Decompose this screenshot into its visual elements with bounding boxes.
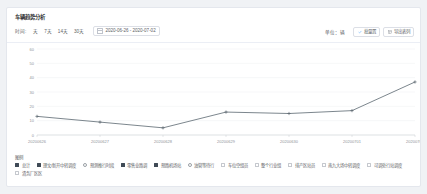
- date-range-input[interactable]: 2020-06-26 - 2020-07-02: [93, 26, 160, 36]
- data-point[interactable]: [161, 126, 164, 129]
- y-axis-tick: 30: [30, 90, 35, 95]
- legend-item-label: 南九大场中转调度: [328, 163, 360, 168]
- range-option-3[interactable]: 30天: [71, 26, 87, 37]
- y-axis-tick: 60: [30, 47, 35, 52]
- legend-checkbox-icon[interactable]: [255, 163, 259, 167]
- legend-item[interactable]: 理文/新开中转调度: [37, 163, 77, 168]
- time-filter-label: 时间:: [15, 26, 26, 37]
- y-axis-tick: 0: [32, 133, 35, 138]
- data-point[interactable]: [413, 80, 416, 83]
- trend-analysis-card: 车辆趋势分析 时间: 天 7天 14天 30天 2020-06-26 - 202…: [6, 7, 421, 187]
- legend-checkbox-icon[interactable]: [15, 163, 19, 167]
- chart-legend: 图例 总计理文/新开中转调度预测推行时段零售业路调预路机场站油管等待行车位空组员…: [15, 154, 414, 179]
- legend-item[interactable]: 南九大场中转调度: [322, 163, 361, 168]
- legend-item-label: 总计: [22, 163, 30, 168]
- x-axis-tick: 20200702: [406, 139, 421, 144]
- chart-canvas: 0102030405060202006262020062720200628202…: [7, 43, 421, 151]
- legend-item-label: 零售业路调: [127, 163, 147, 168]
- legend-item-label: 预路机场站: [161, 163, 181, 168]
- legend-item[interactable]: 总计: [15, 163, 30, 168]
- series-line: [37, 82, 415, 128]
- x-axis-tick: 20200630: [280, 139, 299, 144]
- legend-item-label: 清务厂区区: [22, 171, 42, 176]
- legend-item-label: 理文/新开中转调度: [43, 163, 76, 168]
- legend-row-secondary: 清务厂区区: [15, 171, 414, 179]
- data-point[interactable]: [350, 109, 353, 112]
- legend-item-label: 油管等待行: [194, 163, 214, 168]
- data-point[interactable]: [287, 112, 290, 115]
- legend-item[interactable]: 预测推行时段: [83, 163, 114, 168]
- legend-checkbox-icon[interactable]: [322, 163, 326, 167]
- data-point[interactable]: [98, 121, 101, 124]
- export-icon: [388, 30, 392, 34]
- legend-item-label: 车位空组员: [228, 163, 248, 168]
- x-axis-tick: 20200701: [343, 139, 362, 144]
- legend-item[interactable]: 排产区站员: [288, 163, 315, 168]
- legend-checkbox-icon[interactable]: [154, 163, 158, 167]
- legend-item-label: 预测推行时段: [90, 163, 114, 168]
- y-axis-tick: 40: [30, 75, 35, 80]
- x-axis-tick: 20200628: [154, 139, 173, 144]
- y-axis-tick: 50: [30, 61, 35, 66]
- legend-item[interactable]: 预路机场站: [154, 163, 181, 168]
- card-title: 车辆趋势分析: [15, 13, 46, 21]
- legend-checkbox-icon[interactable]: [367, 163, 371, 167]
- trend-line-chart: 0102030405060202006262020062720200628202…: [7, 43, 421, 151]
- legend-item-label: 整个行业组: [261, 163, 281, 168]
- legend-checkbox-icon[interactable]: [221, 163, 225, 167]
- date-range-value: 2020-06-26 - 2020-07-02: [106, 26, 156, 36]
- legend-checkbox-icon[interactable]: [15, 171, 19, 175]
- check-icon: [358, 30, 362, 34]
- x-axis-tick: 20200629: [217, 139, 236, 144]
- legend-checkbox-icon[interactable]: [188, 163, 192, 167]
- legend-item-label: 可调处行站调度: [374, 163, 402, 168]
- legend-checkbox-icon[interactable]: [121, 163, 125, 167]
- range-option-1[interactable]: 7天: [41, 26, 55, 37]
- export-label: 导出表列: [394, 27, 410, 37]
- batch-select-button[interactable]: 批量置: [353, 27, 380, 37]
- legend-item[interactable]: 可调处行站调度: [367, 163, 402, 168]
- legend-item[interactable]: 车位空组员: [221, 163, 248, 168]
- legend-title: 图例: [15, 154, 414, 160]
- range-option-0[interactable]: 天: [30, 26, 41, 37]
- x-axis-tick: 20200626: [28, 139, 47, 144]
- export-button[interactable]: 导出表列: [383, 27, 414, 37]
- calendar-icon: [97, 28, 103, 34]
- data-point[interactable]: [224, 110, 227, 113]
- filter-toolbar: 时间: 天 7天 14天 30天 2020-06-26 - 2020-07-02…: [15, 26, 414, 37]
- x-axis-tick: 20200627: [91, 139, 110, 144]
- legend-item[interactable]: 清务厂区区: [15, 171, 42, 176]
- range-segment-group[interactable]: 天 7天 14天 30天: [30, 26, 87, 37]
- y-axis-tick: 20: [30, 104, 35, 109]
- legend-item[interactable]: 零售业路调: [121, 163, 148, 168]
- unit-label: 单位：辆: [325, 29, 345, 35]
- legend-item-label: 排产区站员: [295, 163, 315, 168]
- legend-checkbox-icon[interactable]: [37, 163, 41, 167]
- batch-select-label: 批量置: [364, 27, 376, 37]
- legend-item[interactable]: 整个行业组: [255, 163, 282, 168]
- legend-checkbox-icon[interactable]: [288, 163, 292, 167]
- range-option-2[interactable]: 14天: [55, 26, 71, 37]
- legend-row-primary: 总计理文/新开中转调度预测推行时段零售业路调预路机场站油管等待行车位空组员整个行…: [15, 163, 414, 171]
- toolbar-actions: 单位：辆 批量置 导出表列: [325, 26, 414, 37]
- data-point[interactable]: [35, 115, 38, 118]
- legend-checkbox-icon[interactable]: [83, 163, 87, 167]
- y-axis-tick: 10: [30, 118, 35, 123]
- legend-item[interactable]: 油管等待行: [188, 163, 215, 168]
